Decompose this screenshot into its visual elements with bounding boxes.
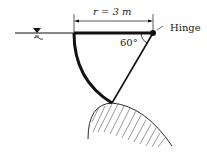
rock-foundation: [88, 103, 172, 147]
hinge-leader: [157, 26, 163, 30]
free-surface-icon: [33, 28, 43, 39]
angle-label: 60°: [120, 37, 138, 48]
radius-label: r = 3 m: [93, 6, 132, 17]
gate-curved-surface: [74, 33, 112, 103]
hinge-icon: [150, 30, 156, 36]
hinge-label: Hinge: [170, 22, 201, 33]
